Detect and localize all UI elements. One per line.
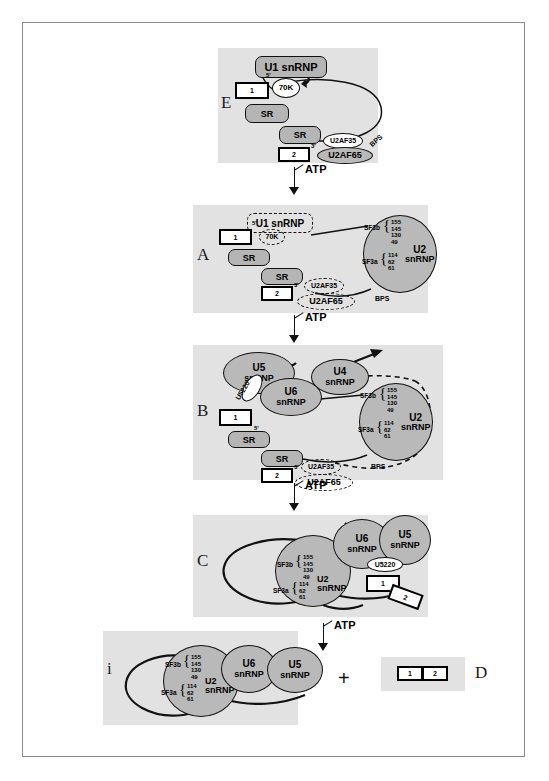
five-prime-label-e: 5' <box>266 72 271 78</box>
sf3a-114: 114 <box>187 683 197 690</box>
sf3b-145: 145 <box>387 394 397 401</box>
sf3a-62: 62 <box>388 259 398 266</box>
sf3a-114: 114 <box>384 420 394 427</box>
exon-2-a: 2 <box>261 286 293 301</box>
exon-1-a: 1 <box>219 229 252 245</box>
u5220-c: U5220 <box>367 557 403 572</box>
sr-protein-b-1: SR <box>228 431 270 448</box>
u6-snrnp-b: U6 snRNP <box>260 378 322 416</box>
sf3a-label-b: SF3a <box>358 426 374 433</box>
u6-line1: U6 <box>356 534 369 544</box>
exon-1-b: 1 <box>219 409 252 426</box>
stage-label-e: E <box>221 93 231 113</box>
sf3a-brace-a: { <box>380 251 387 266</box>
stage-label-d: D <box>475 663 487 683</box>
arrow-tick <box>294 312 304 319</box>
arrow-head <box>289 335 299 343</box>
70k-protein-a: 70K <box>259 229 285 245</box>
sf3b-130: 130 <box>387 400 397 407</box>
sf3b-brace-a: { <box>383 218 390 233</box>
sf3b-145: 145 <box>191 661 201 668</box>
sf3a-62: 62 <box>299 588 309 595</box>
sf3b-155: 155 <box>391 219 401 226</box>
sf3a-subunits-a: 114 62 61 <box>388 252 398 272</box>
atp-label-4: ATP <box>334 619 356 631</box>
sf3a-label-c: SF3a <box>273 587 289 594</box>
sf3b-label-a: SF3b <box>364 224 380 231</box>
sf3b-subunits-a: 155 145 130 49 <box>391 219 401 246</box>
sf3a-subunits-c: 114 62 61 <box>299 581 309 601</box>
u6-line1: U6 <box>285 387 298 397</box>
70k-protein-e: 70K <box>272 78 300 98</box>
sf3a-subunits-i: 114 62 61 <box>187 683 197 703</box>
sf3b-130: 130 <box>303 567 313 574</box>
stage-label-b: B <box>197 401 208 421</box>
u5-line1: U5 <box>253 363 266 373</box>
exon-1-d: 1 <box>397 666 423 681</box>
exon-2-b: 2 <box>261 468 293 483</box>
u2af35-a: U2AF35 <box>304 278 344 294</box>
sf3b-145: 145 <box>303 561 313 568</box>
arrow-tick <box>294 164 304 171</box>
sf3b-145: 145 <box>391 226 401 233</box>
stage-label-c: C <box>197 551 208 571</box>
sf3a-61: 61 <box>388 265 398 272</box>
u2-line2: snRNP <box>317 584 347 593</box>
stage-label-i: i <box>107 659 112 679</box>
u2-line2: snRNP <box>401 423 431 432</box>
plus-sign: + <box>338 667 350 690</box>
three-prime-label-e: 3' <box>311 143 316 149</box>
sf3a-brace-i: { <box>179 682 186 697</box>
sf3b-subunits-i: 155 145 130 49 <box>191 654 201 681</box>
atp-label-2: ATP <box>305 311 327 323</box>
u6-line1: U6 <box>243 659 256 669</box>
sf3b-label-b: SF3b <box>360 392 376 399</box>
exon-1-e: 1 <box>235 82 269 99</box>
u2-line2: snRNP <box>205 686 235 695</box>
sf3b-49: 49 <box>191 674 201 681</box>
sf3b-label-c: SF3b <box>277 561 293 568</box>
u5-snrnp-i: U5 snRNP <box>267 647 323 693</box>
u2-line2: snRNP <box>405 255 435 264</box>
u5-line1: U5 <box>399 530 412 540</box>
figure-frame: E U1 snRNP 70K 1 5' SR SR 2 3' U2AF35 U2… <box>22 22 525 757</box>
sf3a-subunits-b: 114 62 61 <box>384 420 394 440</box>
sf3a-61: 61 <box>299 594 309 601</box>
sf3b-brace-b: { <box>379 386 386 401</box>
sf3b-brace-i: { <box>183 653 190 668</box>
exon-2-d: 2 <box>422 666 448 681</box>
sf3b-49: 49 <box>391 239 401 246</box>
u6-line2: snRNP <box>276 398 306 407</box>
u6-line2: snRNP <box>347 545 377 554</box>
arrow-tick <box>323 620 333 627</box>
three-prime-label-a: 3' <box>294 282 299 288</box>
sr-protein-a-1: SR <box>228 249 270 266</box>
sf3a-61: 61 <box>384 433 394 440</box>
stage-label-a: A <box>197 245 209 265</box>
u2-snrnp-label-b: U2 snRNP <box>401 413 431 432</box>
sf3b-130: 130 <box>191 667 201 674</box>
u6-line2: snRNP <box>234 670 264 679</box>
u2-snrnp-label-c: U2 snRNP <box>317 575 347 593</box>
atp-label-1: ATP <box>305 163 327 175</box>
arrow-head <box>289 503 299 511</box>
sf3a-label-i: SF3a <box>161 689 177 696</box>
sf3a-62: 62 <box>384 427 394 434</box>
sr-protein-e-2: SR <box>279 126 321 144</box>
u2af65-e: U2AF65 <box>317 147 373 164</box>
u2-snrnp-label-a: U2 snRNP <box>405 245 435 264</box>
sf3b-49: 49 <box>387 407 397 414</box>
sf3b-label-i: SF3b <box>165 661 181 668</box>
three-prime-label-b: 3' <box>294 464 299 470</box>
sf3a-62: 62 <box>187 690 197 697</box>
u5-line2: snRNP <box>280 671 310 680</box>
sr-protein-e-1: SR <box>245 104 289 123</box>
arrow-head <box>318 643 328 651</box>
sf3b-subunits-c: 155 145 130 49 <box>303 554 313 581</box>
sf3b-155: 155 <box>387 387 397 394</box>
atp-label-3: ATP <box>305 479 327 491</box>
five-prime-label-a: 5' <box>252 220 257 226</box>
sf3b-155: 155 <box>191 654 201 661</box>
bps-label-b: BPS <box>371 463 385 470</box>
sf3a-114: 114 <box>299 581 309 588</box>
